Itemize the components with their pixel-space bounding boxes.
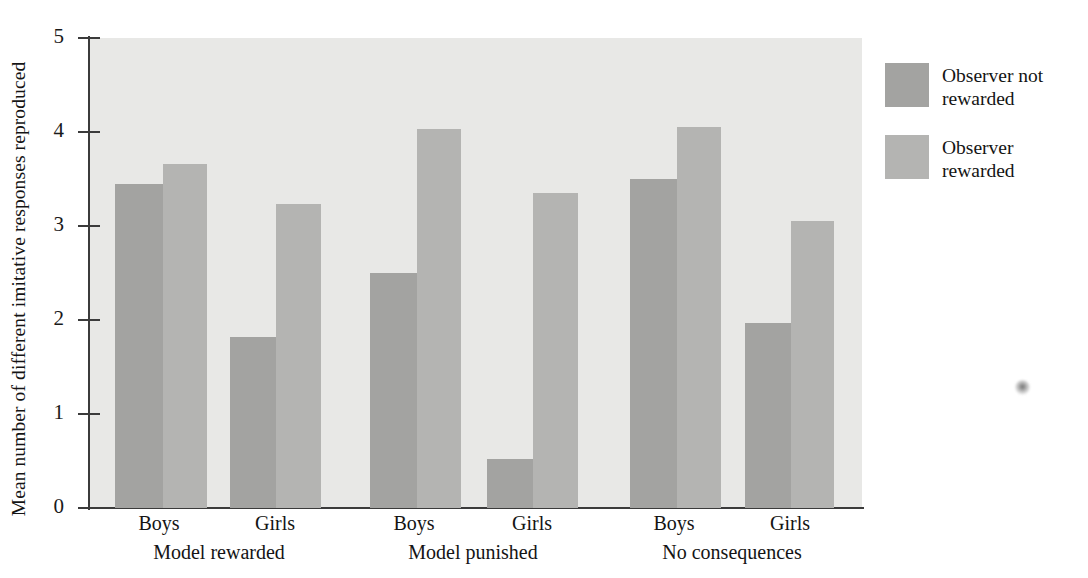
y-tick-5	[78, 37, 100, 39]
bar-no-consequences-girls-not-rewarded	[745, 323, 791, 508]
bar-model-rewarded-girls-rewarded	[276, 204, 321, 508]
bar-model-rewarded-boys-rewarded	[163, 164, 207, 508]
y-tick-label-1: 1	[38, 402, 64, 423]
y-tick-1	[78, 413, 100, 415]
y-axis-title: Mean number of different imitative respo…	[0, 0, 38, 578]
bar-model-punished-girls-rewarded	[533, 193, 578, 508]
legend-swatch-icon-not-rewarded	[885, 63, 929, 107]
y-tick-label-4: 4	[38, 120, 64, 141]
legend-label-observer-not-rewarded: Observer not rewarded	[942, 63, 1082, 110]
legend: Observer not rewarded Observer rewarded	[885, 63, 1085, 207]
legend-item-observer-not-rewarded: Observer not rewarded	[885, 63, 1085, 110]
x-label-model-rewarded-girls: Girls	[227, 512, 323, 534]
legend-label-observer-rewarded: Observer rewarded	[942, 135, 1082, 182]
bar-no-consequences-boys-not-rewarded	[630, 179, 677, 508]
x-group-label-model-rewarded: Model rewarded	[104, 541, 334, 563]
x-label-model-rewarded-boys: Boys	[111, 512, 207, 534]
scan-artifact-smudge	[1015, 380, 1030, 395]
bar-model-punished-boys-rewarded	[417, 129, 461, 508]
legend-swatch-icon-rewarded	[885, 135, 929, 179]
x-group-label-model-punished: Model punished	[358, 541, 588, 563]
x-label-model-punished-boys: Boys	[366, 512, 462, 534]
x-label-no-consequences-boys: Boys	[626, 512, 722, 534]
bar-model-punished-boys-not-rewarded	[370, 273, 417, 508]
y-tick-0	[78, 507, 100, 509]
bar-model-rewarded-girls-not-rewarded	[230, 337, 276, 508]
y-tick-label-0: 0	[38, 496, 64, 517]
y-tick-label-5: 5	[38, 26, 64, 47]
bar-model-punished-girls-not-rewarded	[487, 459, 533, 508]
y-tick-3	[78, 225, 100, 227]
x-label-model-punished-girls: Girls	[484, 512, 580, 534]
bar-no-consequences-boys-rewarded	[677, 127, 721, 508]
x-label-no-consequences-girls: Girls	[742, 512, 838, 534]
legend-item-observer-rewarded: Observer rewarded	[885, 135, 1085, 182]
y-tick-label-3: 3	[38, 214, 64, 235]
y-tick-label-2: 2	[38, 308, 64, 329]
x-group-label-no-consequences: No consequences	[617, 541, 847, 563]
y-tick-2	[78, 319, 100, 321]
bar-no-consequences-girls-rewarded	[791, 221, 834, 508]
y-axis-line	[88, 36, 90, 510]
bar-model-rewarded-boys-not-rewarded	[115, 184, 163, 508]
y-tick-4	[78, 131, 100, 133]
chart-figure: Mean number of different imitative respo…	[0, 0, 1088, 578]
